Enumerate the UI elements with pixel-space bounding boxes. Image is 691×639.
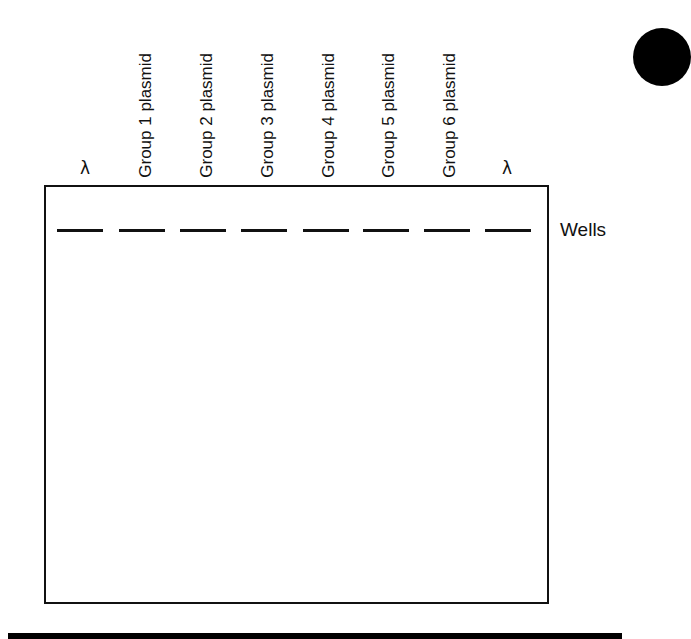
gel-outline <box>44 185 549 604</box>
well-3 <box>180 229 226 232</box>
well-1 <box>57 229 103 232</box>
lane-label-group-5: Group 5 plasmid <box>376 8 400 178</box>
lane-label-text: Group 6 plasmid <box>441 53 458 178</box>
lane-label-group-4: Group 4 plasmid <box>316 8 340 178</box>
lane-label-text: Group 1 plasmid <box>137 53 154 178</box>
well-7 <box>424 229 470 232</box>
well-6 <box>363 229 409 232</box>
lane-label-lambda-left: λ <box>75 160 95 177</box>
page-tab-dot-icon <box>633 28 691 86</box>
well-2 <box>119 229 165 232</box>
lane-label-text: Group 5 plasmid <box>380 53 397 178</box>
lane-label-group-6: Group 6 plasmid <box>437 8 461 178</box>
well-5 <box>303 229 349 232</box>
bottom-rule <box>8 633 622 639</box>
lane-label-text: Group 4 plasmid <box>320 53 337 178</box>
well-8 <box>485 229 531 232</box>
lane-label-group-1: Group 1 plasmid <box>133 8 157 178</box>
lane-label-group-3: Group 3 plasmid <box>255 8 279 178</box>
lane-label-lambda-right: λ <box>497 160 517 177</box>
lane-label-text: Group 3 plasmid <box>259 53 276 178</box>
wells-label: Wells <box>560 220 606 239</box>
well-4 <box>241 229 287 232</box>
lane-label-text: Group 2 plasmid <box>198 53 215 178</box>
lane-label-group-2: Group 2 plasmid <box>194 8 218 178</box>
